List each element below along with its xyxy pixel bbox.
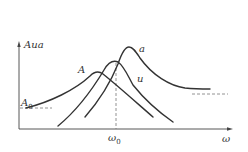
y-axis-arrow-icon <box>17 41 20 47</box>
omega0-label: ω0 <box>108 133 121 146</box>
a0-label-sub: 0 <box>28 103 32 111</box>
omega0-label-main: ω <box>108 132 116 143</box>
curve-a-label: a <box>139 44 145 54</box>
x-axis-arrow-icon <box>227 127 233 130</box>
curve-a <box>85 47 210 117</box>
curve-u-label: u <box>137 74 143 84</box>
curve-A <box>26 72 153 117</box>
reference-lines <box>20 63 228 129</box>
y-axis-label: Aua <box>24 40 44 50</box>
curve-A-label: A <box>78 65 85 75</box>
curves <box>26 47 210 126</box>
omega0-label-sub: 0 <box>116 138 120 146</box>
a0-label: A0 <box>21 98 33 111</box>
axes <box>17 41 233 131</box>
x-axis-label: ω <box>222 134 230 144</box>
resonance-curves-diagram <box>0 0 248 152</box>
